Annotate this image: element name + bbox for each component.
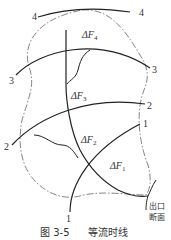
caption-title: 等流时线 (88, 226, 128, 238)
tributary-lower (34, 135, 78, 158)
isochrone-3-right-label: 3 (152, 64, 157, 75)
isochrone-3-left-label: 3 (9, 75, 14, 86)
isochrone-4-right-label: 4 (139, 7, 144, 18)
outlet-label-line2: 断面 (149, 212, 165, 222)
tributary-upper (67, 50, 90, 84)
main-river (66, 30, 148, 196)
isochrone-2-left-label: 2 (4, 141, 9, 152)
isochrone-diagram: 4 4 3 3 2 2 1 1 ΔF4 ΔF3 ΔF2 ΔF1 出口 断面 图 … (0, 0, 171, 240)
isochrone-3 (16, 49, 150, 75)
area-f2-label: ΔF2 (80, 134, 97, 147)
isochrone-1-bottom-label: 1 (66, 213, 71, 224)
caption-number: 图 3-5 (40, 227, 70, 238)
isochrone-2-right-label: 2 (147, 100, 152, 111)
isochrone-2 (12, 102, 145, 145)
area-f3-label: ΔF3 (70, 90, 87, 103)
isochrone-1-right-label: 1 (143, 118, 148, 129)
area-f4-label: ΔF4 (81, 29, 98, 42)
isochrone-4-left-label: 4 (32, 11, 37, 22)
outlet-label-line1: 出口 (149, 201, 165, 211)
area-f1-label: ΔF1 (109, 160, 126, 173)
